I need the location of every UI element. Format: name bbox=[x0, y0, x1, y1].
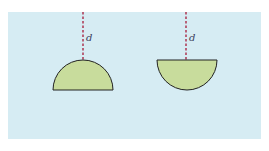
right-hemisphere-group: d bbox=[157, 12, 217, 90]
left-hemisphere-group: d bbox=[53, 12, 113, 90]
diagram: d d bbox=[0, 0, 269, 151]
left-depth-label: d bbox=[86, 32, 92, 43]
right-depth-label: d bbox=[189, 32, 195, 43]
right-hemisphere bbox=[157, 60, 217, 90]
left-hemisphere bbox=[53, 60, 113, 90]
